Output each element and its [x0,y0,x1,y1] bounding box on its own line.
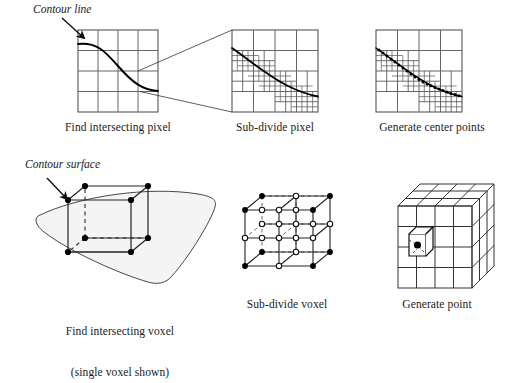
highlighted-subvoxel [409,227,433,256]
panel-generate-point [398,184,494,288]
panel-sub-divide-voxel [242,193,333,269]
panel-find-intersecting-voxel [36,183,215,283]
caption-line-1: Find intersecting voxel [30,325,210,339]
contour-surface-arrow [47,178,67,199]
panel-generate-center-points [376,30,462,112]
annotation-contour-line: Contour line [33,3,91,15]
caption-generate-center-points: Generate center points [348,121,516,135]
caption-find-intersecting-voxel: Find intersecting voxel (single voxel sh… [30,298,210,383]
pixel-grid [78,30,158,112]
panel-find-intersecting-pixel [78,30,158,112]
caption-sub-divide-pixel: Sub-divide pixel [200,121,350,135]
caption-line-2: (single voxel shown) [30,366,210,380]
subdivided-pixel-grid [232,30,318,112]
contour-line-arrow [62,18,84,38]
panel-sub-divide-pixel [232,30,318,112]
annotation-contour-surface: Contour surface [25,158,100,170]
subdivided-voxel-cube [245,196,330,266]
caption-sub-divide-voxel: Sub-divide voxel [222,298,352,312]
caption-find-intersecting-pixel: Find intersecting pixel [38,121,198,135]
subdivided-pixel-grid-3 [376,30,462,112]
contour-surface-sheet [36,191,215,283]
caption-generate-point: Generate point [372,298,502,312]
generated-point [414,241,421,248]
